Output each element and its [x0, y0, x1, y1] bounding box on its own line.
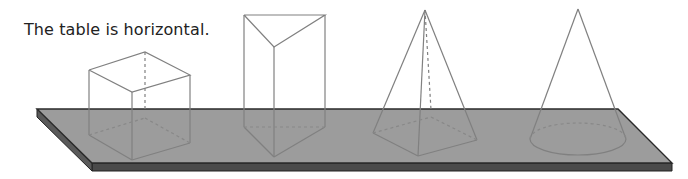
solids-on-table-diagram	[0, 0, 688, 179]
